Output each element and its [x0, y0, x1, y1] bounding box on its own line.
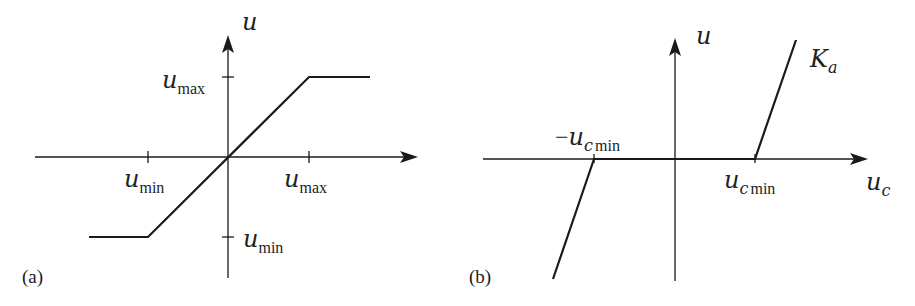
figure-canvas: u umax umin umin umax (a) u Ka [0, 0, 915, 306]
x-tick-label-umax: umax [284, 165, 327, 196]
x-tick-label-ucmin: ucmin [724, 166, 775, 198]
x-axis-label-uc: uc [866, 168, 890, 200]
panel-b: u Ka −ucmin ucmin uc (b) [469, 22, 890, 288]
y-axis-label-b: u [696, 22, 711, 50]
x-tick-label-umin: umin [124, 165, 164, 196]
x-tick-label-neg-ucmin: −ucmin [555, 123, 620, 155]
slope-label-ka: Ka [809, 45, 837, 77]
panel-a: u umax umin umin umax (a) [22, 8, 418, 288]
y-axis-label-a: u [242, 8, 257, 36]
y-tick-label-umax: umax [162, 66, 205, 97]
y-tick-label-umin: umin [243, 225, 283, 256]
panel-label-a: (a) [22, 266, 43, 288]
panel-label-b: (b) [469, 266, 491, 288]
